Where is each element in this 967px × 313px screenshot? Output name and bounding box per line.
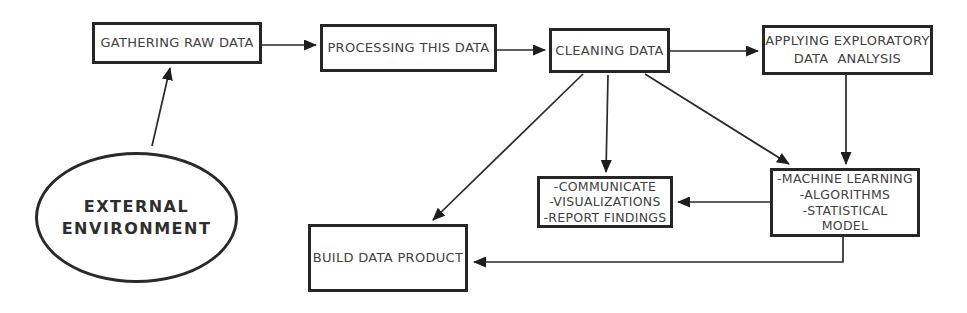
- node-label-line: ENVIRONMENT: [62, 218, 212, 240]
- flowchart-diagram: GATHERING RAW DATA PROCESSING THIS DATA …: [0, 0, 967, 313]
- node-label-line: EXTERNAL: [84, 196, 189, 218]
- node-label: CLEANING DATA: [555, 43, 663, 59]
- node-label-line: -ALGORITHMS: [800, 187, 891, 203]
- node-label-line: APPLYING EXPLORATORY: [765, 32, 929, 50]
- node-label-line: MODEL: [822, 218, 869, 234]
- node-label: GATHERING RAW DATA: [100, 35, 253, 51]
- node-label-line: -STATISTICAL: [802, 203, 887, 219]
- node-label: BUILD DATA PRODUCT: [313, 250, 463, 266]
- node-label-line: -VISUALIZATIONS: [549, 194, 660, 210]
- node-label: PROCESSING THIS DATA: [327, 40, 489, 56]
- node-label-line: DATA ANALYSIS: [794, 50, 901, 68]
- node-external-environment: EXTERNAL ENVIRONMENT: [35, 152, 238, 283]
- node-processing-this-data: PROCESSING THIS DATA: [320, 24, 497, 72]
- node-build-data-product: BUILD DATA PRODUCT: [308, 224, 468, 292]
- arrow-ml-to-build: [474, 237, 843, 262]
- arrow-cleaning-to-communicate: [606, 75, 608, 172]
- node-machine-learning-algorithms-statistical-model: -MACHINE LEARNING -ALGORITHMS -STATISTIC…: [770, 168, 920, 237]
- node-label-line: -REPORT FINDINGS: [543, 210, 666, 226]
- node-label-line: -COMMUNICATE: [554, 179, 656, 195]
- node-gathering-raw-data: GATHERING RAW DATA: [92, 22, 262, 64]
- node-communicate-visualizations-report-findings: -COMMUNICATE -VISUALIZATIONS -REPORT FIN…: [537, 176, 673, 228]
- arrow-cleaning-to-ml: [645, 74, 789, 164]
- node-applying-exploratory-data-analysis: APPLYING EXPLORATORY DATA ANALYSIS: [762, 25, 933, 75]
- node-label-line: -MACHINE LEARNING: [777, 171, 913, 187]
- node-cleaning-data: CLEANING DATA: [549, 28, 670, 73]
- arrow-external-to-gathering: [152, 68, 170, 146]
